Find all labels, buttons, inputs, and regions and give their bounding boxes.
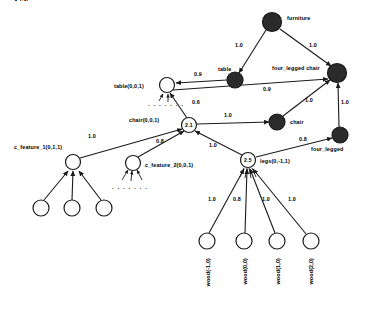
edge-weight-e-chairconcept-flchair: 1.0 xyxy=(305,97,313,103)
edge-weight-e-wood1-legs: 1.0 xyxy=(262,196,270,202)
node-chair_concept[interactable] xyxy=(269,114,285,130)
edge-cf2-stub-2 xyxy=(131,171,132,181)
node-wood_2[interactable] xyxy=(303,233,319,249)
edge-table-node-table-concept xyxy=(176,80,227,83)
node-c_feature_2[interactable] xyxy=(126,156,141,171)
edge-weight-e-tablenode-flchair: 0.9 xyxy=(263,86,271,92)
node-label-chair_concept: chair xyxy=(290,119,304,125)
ellipsis-table-ellipsis: . . . . . . . xyxy=(148,101,184,107)
edge-furniture-four-legged-chair xyxy=(280,29,331,66)
edge-table-node-four-legged-chair xyxy=(173,79,328,90)
node-inner-label-chair_node: 2.1 xyxy=(185,122,193,128)
vertical-label-wood_0_label: wood(0,0) xyxy=(242,258,248,286)
edge-table-node-stub-1 xyxy=(159,94,163,101)
node-label-four_legged_chair: four_legged chair xyxy=(272,65,321,71)
edge-cf2-stub-1 xyxy=(122,170,128,180)
edge-weight-e-wood2-legs: 1.0 xyxy=(288,196,296,202)
edge-cf1-child-1 xyxy=(44,171,68,200)
node-label-table_node: table(0,0,1) xyxy=(114,83,144,89)
edge-legs-stub-1 xyxy=(240,168,244,177)
node-label-legs_node: legs(0,-1,1) xyxy=(260,158,290,164)
edge-four-legged-four-legged-chair xyxy=(338,83,339,127)
node-table_concept[interactable] xyxy=(227,72,243,88)
edge-legs-chair-node xyxy=(195,131,242,155)
node-label-chair_node: chair(0,0,1) xyxy=(129,117,159,123)
nodes-layer: 2.12.5 xyxy=(33,13,348,250)
edge-weight-e-furniture-fourleggedchair: 1.0 xyxy=(309,42,317,48)
node-inner-label-legs_node: 2.5 xyxy=(244,157,252,163)
node-four_legged_chair[interactable] xyxy=(328,64,347,83)
edge-cf1-child-3 xyxy=(79,171,101,200)
edge-furniture-table xyxy=(239,30,266,73)
vertical-label-wood_2_label: wood(2,0) xyxy=(308,258,314,286)
edge-weight-e-chairnode-tablenode: 0.6 xyxy=(192,99,200,105)
node-label-furniture: furniture xyxy=(287,15,311,21)
edge-weight-e-chairnode-chairconcept: 1.0 xyxy=(224,112,232,118)
node-label-c_feature_1: c_feature_1(0,1,1) xyxy=(14,144,62,150)
edge-weight-e-fourlegged-flchair: 1.0 xyxy=(341,99,349,105)
edge-weight-e-legs-chairnode: 1.0 xyxy=(209,142,217,148)
edge-weight-e-wood0-legs: 0.8 xyxy=(233,196,241,202)
edge-cf2-stub-3 xyxy=(137,170,142,180)
node-label-table_concept: table xyxy=(218,66,231,72)
edge-weight-e-furniture-table: 1.0 xyxy=(235,42,243,48)
node-furniture[interactable] xyxy=(263,13,282,32)
vertical-labels-layer: wood(-1,0)wood(0,0)wood(1,0)wood(2,0) xyxy=(205,258,314,288)
node-c_feature_1[interactable] xyxy=(66,155,81,170)
node-cf1_child_3[interactable] xyxy=(96,200,112,216)
node-cf1_child_2[interactable] xyxy=(64,200,80,216)
edge-wood-0-legs xyxy=(245,169,247,233)
graph-svg: 2.12.5 1.01.00.90.90.61.01.01.01.00.81.0… xyxy=(0,0,369,310)
edge-weight-e-cf2-chairnode: 0.8 xyxy=(156,138,164,144)
edge-weight-e-tablenode-tableconcept: 0.9 xyxy=(194,71,202,77)
node-label-c_feature_2: c_feature_2(0,0,1) xyxy=(145,162,193,168)
edge-wood-2-legs xyxy=(253,169,306,234)
edge-weight-e-legs-fourlegged: 0.8 xyxy=(299,136,307,142)
vertical-label-wood_1_label: wood(1,0) xyxy=(275,258,281,286)
ellipsis-cfeature2-ellipsis: . . . . . . . xyxy=(112,184,148,190)
node-label-wood_2: wood(2,0) xyxy=(0,0,27,1)
node-wood_1[interactable] xyxy=(269,233,285,249)
node-label-four_legged: four_legged xyxy=(311,146,344,152)
edge-weight-e-woodm1-legs: 1.0 xyxy=(208,196,216,202)
node-table_node[interactable] xyxy=(160,78,175,93)
edge-cf1-child-2 xyxy=(72,171,73,200)
node-wood_m1[interactable] xyxy=(199,233,215,249)
vertical-label-wood_m1_label: wood(-1,0) xyxy=(205,258,211,288)
node-wood_0[interactable] xyxy=(236,233,252,249)
diagram-canvas: 2.12.5 1.01.00.90.90.61.01.01.01.00.81.0… xyxy=(0,0,369,310)
edge-weight-e-cf1-chairnode: 1.0 xyxy=(88,133,96,139)
node-four_legged[interactable] xyxy=(332,127,348,143)
edge-chair-node-chair-concept xyxy=(197,122,269,124)
node-cf1_child_1[interactable] xyxy=(33,200,49,216)
